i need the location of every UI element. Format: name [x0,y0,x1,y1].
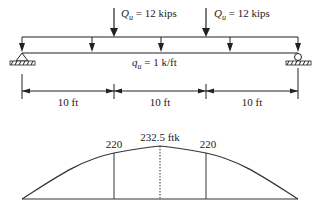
point-load-2: Qu = 12 kips [202,7,270,37]
arrow-down-icon [110,28,118,37]
beam-diagram: Qu = 12 kips Qu = 12 kips qu = 1 k/ft [0,0,319,212]
arrow-down-icon [295,43,301,52]
moment-value-right: 220 [200,138,217,150]
point-load-1-symbol: Q [121,7,129,19]
point-load-1: Qu = 12 kips [110,7,177,37]
distributed-load-label: qu = 1 k/ft [132,56,177,71]
svg-text:Qu = 12 kips: Qu = 12 kips [214,7,270,22]
point-load-1-value: = 12 kips [133,7,177,19]
moment-value-peak: 232.5 ftk [140,131,180,143]
arrow-down-icon [19,43,25,52]
span-1-label: 10 ft [58,96,78,108]
roller-support-icon [286,54,311,66]
dimension-lines [22,68,298,99]
svg-text:Qu = 12 kips: Qu = 12 kips [121,7,177,22]
pin-support-icon [10,53,35,65]
point-load-2-value: = 12 kips [226,7,270,19]
moment-diagram [22,146,298,199]
moment-value-left: 220 [106,138,123,150]
arrow-down-icon [89,43,95,52]
arrow-down-icon [227,43,233,52]
arrow-down-icon [158,43,164,52]
point-load-2-symbol: Q [214,7,222,19]
distributed-load [19,37,301,52]
span-3-label: 10 ft [242,96,262,108]
span-2-label: 10 ft [150,96,170,108]
arrow-down-icon [202,28,210,37]
